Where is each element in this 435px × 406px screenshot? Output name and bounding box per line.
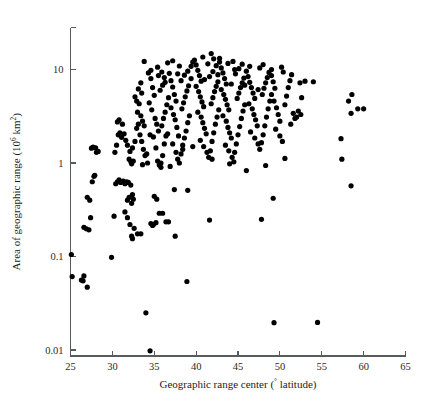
data-point	[185, 69, 190, 74]
data-point	[251, 112, 256, 117]
data-point	[244, 69, 249, 74]
y-tick-label-10: 10	[53, 64, 64, 75]
x-tick-label-45: 45	[233, 361, 244, 372]
data-point	[348, 111, 353, 116]
data-point	[209, 139, 214, 144]
data-point	[123, 138, 128, 143]
data-point	[182, 135, 187, 140]
data-point	[168, 105, 173, 110]
data-point	[160, 211, 165, 216]
data-point	[85, 285, 90, 290]
data-point	[209, 157, 214, 162]
data-point	[177, 63, 182, 68]
data-point	[215, 72, 220, 77]
data-point	[173, 98, 178, 103]
data-point	[219, 87, 224, 92]
data-point	[271, 98, 276, 103]
data-point	[349, 92, 354, 97]
data-point	[281, 69, 286, 74]
data-point	[145, 160, 150, 165]
data-point	[250, 90, 255, 95]
data-point	[250, 106, 255, 111]
data-point	[236, 90, 241, 95]
data-point	[184, 88, 189, 93]
data-point	[153, 220, 158, 225]
x-tick-label-30: 30	[107, 361, 118, 372]
data-point	[167, 71, 172, 76]
data-point	[227, 130, 232, 135]
data-point	[242, 83, 247, 88]
data-point	[172, 92, 177, 97]
data-point	[263, 163, 268, 168]
data-point	[225, 125, 230, 130]
data-point	[215, 79, 220, 84]
data-point	[199, 114, 204, 119]
data-point	[315, 320, 320, 325]
data-point	[204, 131, 209, 136]
data-point	[210, 95, 215, 100]
data-point	[173, 234, 178, 239]
data-point	[246, 101, 251, 106]
data-point	[201, 104, 206, 109]
data-point	[176, 133, 181, 138]
data-point	[282, 156, 287, 161]
data-point	[143, 310, 148, 315]
data-point	[189, 76, 194, 81]
data-point	[137, 132, 142, 137]
data-point	[232, 67, 237, 72]
data-point	[237, 124, 242, 129]
data-point	[114, 143, 119, 148]
data-point	[80, 278, 85, 283]
data-point	[148, 68, 153, 73]
scatter-plot-figure: 2530354045505560650.010.1110Geographic r…	[0, 0, 435, 406]
data-point	[127, 222, 132, 227]
data-point	[271, 196, 276, 201]
data-point	[140, 162, 145, 167]
data-point	[221, 92, 226, 97]
data-point	[212, 89, 217, 94]
data-point	[262, 123, 267, 128]
data-point	[173, 117, 178, 122]
data-point	[282, 102, 287, 107]
data-point	[225, 61, 230, 66]
data-point	[207, 218, 212, 223]
data-point	[172, 187, 177, 192]
data-point	[211, 56, 216, 61]
data-point	[130, 145, 135, 150]
data-point	[217, 56, 222, 61]
data-point	[69, 252, 74, 257]
data-point	[261, 132, 266, 137]
data-point	[153, 145, 158, 150]
data-point	[224, 81, 229, 86]
data-point	[166, 219, 171, 224]
data-point	[209, 51, 214, 56]
data-point	[155, 65, 160, 70]
data-point	[148, 76, 153, 81]
data-point	[259, 140, 264, 145]
data-point	[132, 226, 137, 231]
data-point	[136, 86, 141, 91]
data-point	[214, 84, 219, 89]
data-point	[158, 165, 163, 170]
x-axis-title: Geographic range center (° latitude)	[160, 377, 317, 392]
data-point	[273, 127, 278, 132]
data-point	[230, 59, 235, 64]
data-point	[252, 96, 257, 101]
data-point	[261, 86, 266, 91]
data-point	[346, 98, 351, 103]
data-point	[179, 106, 184, 111]
data-point	[92, 173, 97, 178]
data-point	[202, 77, 207, 82]
data-point	[141, 147, 146, 152]
data-point	[197, 73, 202, 78]
data-point	[216, 107, 221, 112]
x-tick-label-55: 55	[317, 361, 328, 372]
data-point	[171, 112, 176, 117]
x-tick-label-65: 65	[400, 361, 411, 372]
data-point	[180, 147, 185, 152]
data-point	[159, 69, 164, 74]
data-point	[138, 231, 143, 236]
data-point	[185, 120, 190, 125]
data-point	[139, 90, 144, 95]
data-point	[109, 255, 114, 260]
